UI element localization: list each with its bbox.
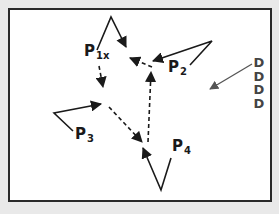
gray-arrow [210,64,252,89]
label-p4: P4 [172,139,191,154]
label-p1: P1x [84,44,109,59]
p4-solid-arrow [143,148,171,190]
d-letter: D [252,70,266,84]
label-p2: P2 [168,60,187,75]
d-letter: D [252,56,266,70]
dashed-p1-down [99,66,103,87]
label-p3: P3 [75,127,94,142]
d-letter: D [252,97,266,111]
dashed-bottom-to-p2 [148,72,151,142]
dashed-left-to-bottom [109,107,142,142]
d-column: D D D D [252,56,266,110]
d-letter: D [252,83,266,97]
diagram-canvas [0,0,279,214]
dashed-p2-to-p1 [130,58,152,67]
